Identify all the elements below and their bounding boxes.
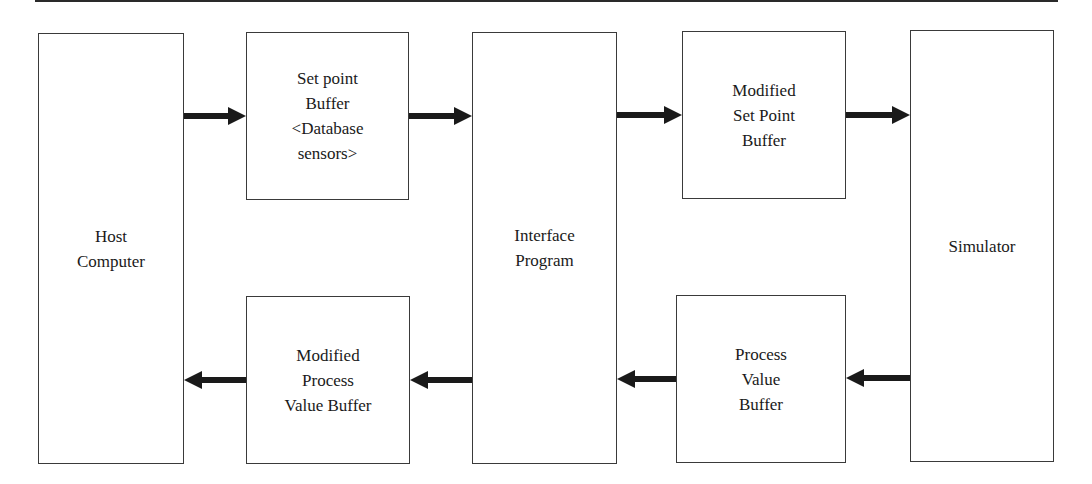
interface-program-label: Interface Program xyxy=(514,223,574,273)
set-point-buffer-block: Set point Buffer <Database sensors> xyxy=(246,32,409,200)
host-computer-block: Host Computer xyxy=(38,33,184,464)
arrow-left-icon xyxy=(617,370,676,388)
modified-set-point-buffer-block: Modified Set Point Buffer xyxy=(682,31,846,199)
arrow-right-icon xyxy=(409,107,472,125)
process-value-buffer-label: Process Value Buffer xyxy=(735,342,787,417)
arrow-left-icon xyxy=(410,371,472,389)
host-computer-label: Host Computer xyxy=(77,224,145,274)
top-rule-divider xyxy=(35,0,1058,2)
set-point-buffer-label: Set point Buffer <Database sensors> xyxy=(292,66,364,166)
arrow-right-icon xyxy=(184,107,246,125)
modified-process-value-buffer-block: Modified Process Value Buffer xyxy=(246,296,410,464)
arrow-left-icon xyxy=(846,369,910,387)
process-value-buffer-block: Process Value Buffer xyxy=(676,295,846,463)
interface-program-block: Interface Program xyxy=(472,32,617,464)
simulator-block: Simulator xyxy=(910,30,1054,462)
arrow-left-icon xyxy=(184,371,246,389)
modified-process-value-buffer-label: Modified Process Value Buffer xyxy=(284,343,371,418)
arrow-right-icon xyxy=(846,106,910,124)
simulator-label: Simulator xyxy=(948,234,1015,259)
arrow-right-icon xyxy=(617,106,682,124)
modified-set-point-buffer-label: Modified Set Point Buffer xyxy=(732,78,795,153)
